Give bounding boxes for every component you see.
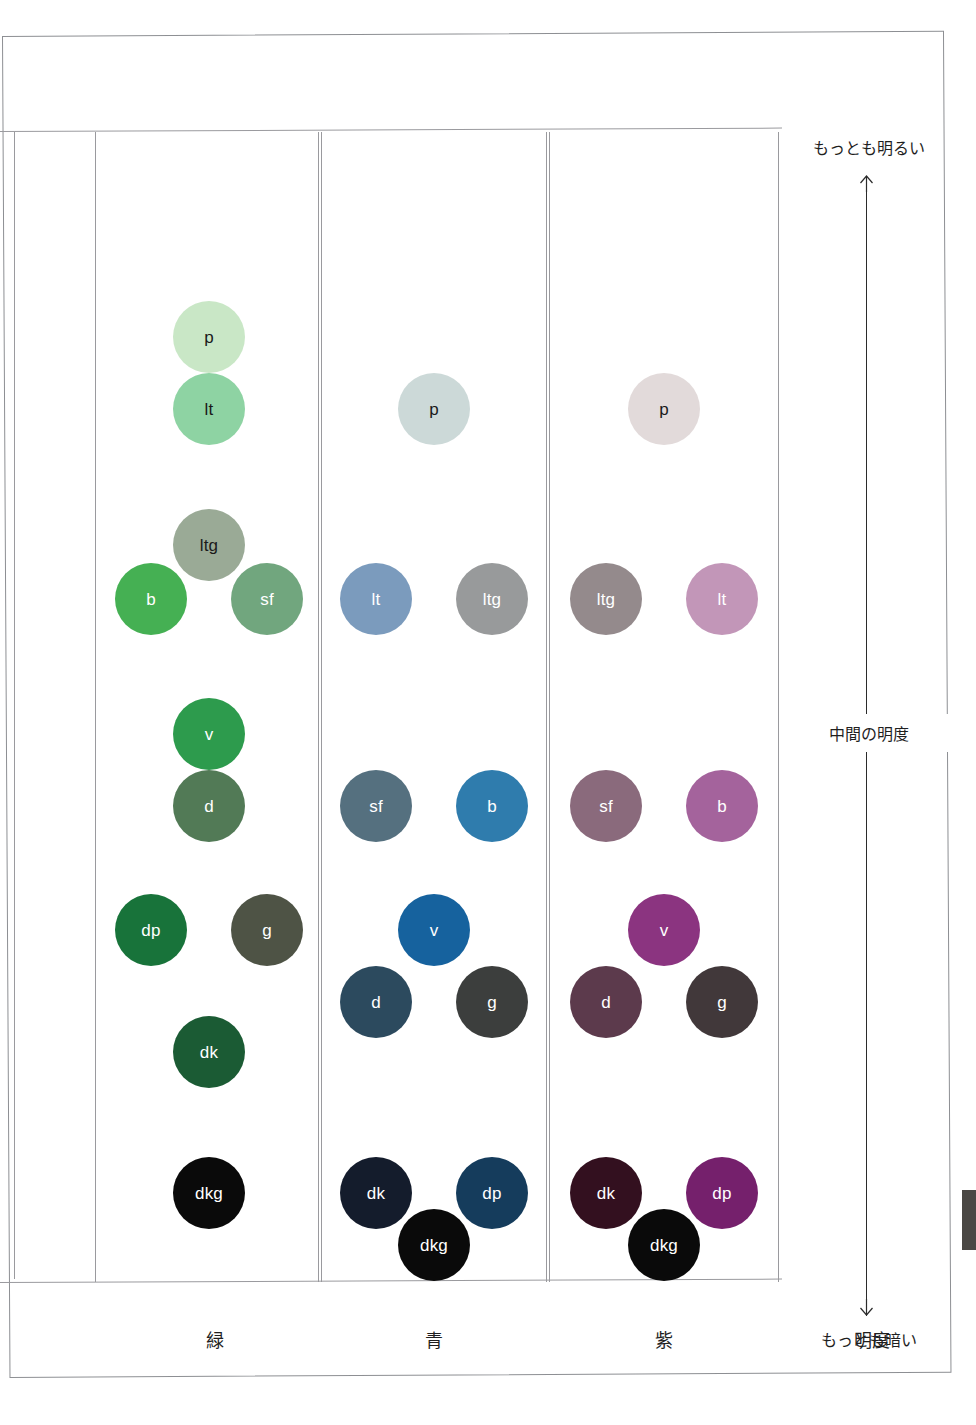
swatch-code-label: dp: [482, 1185, 501, 1202]
grid-vline-purple-left: [549, 132, 550, 1282]
swatch-purple-dk: dk: [570, 1157, 642, 1229]
swatch-code-label: p: [429, 401, 439, 418]
grid-vline-green-right: [318, 132, 319, 1282]
swatch-purple-b: b: [686, 770, 758, 842]
swatch-purple-d: d: [570, 966, 642, 1038]
swatch-blue-ltg: ltg: [456, 563, 528, 635]
swatch-code-label: ltg: [597, 591, 616, 608]
brightness-axis: もっとも明るい 中間の明度 もっとも暗い: [800, 131, 976, 1291]
swatch-code-label: dk: [200, 1044, 218, 1061]
swatch-code-label: g: [262, 922, 272, 939]
swatch-code-label: sf: [260, 591, 274, 608]
axis-label-middle: 中間の明度: [781, 714, 957, 752]
swatch-green-dk: dk: [173, 1016, 245, 1088]
swatch-code-label: ltg: [200, 537, 219, 554]
swatch-purple-g: g: [686, 966, 758, 1038]
swatch-code-label: d: [371, 994, 381, 1011]
swatch-code-label: g: [487, 994, 497, 1011]
swatch-blue-sf: sf: [340, 770, 412, 842]
axis-label-darkest: もっとも暗い: [781, 1327, 957, 1351]
swatch-purple-dkg: dkg: [628, 1209, 700, 1281]
grid-vline-purple-right: [778, 132, 779, 1282]
swatch-code-label: g: [717, 994, 727, 1011]
swatch-blue-d: d: [340, 966, 412, 1038]
swatch-blue-v: v: [398, 894, 470, 966]
swatch-purple-lt: lt: [686, 563, 758, 635]
swatch-code-label: lt: [372, 591, 381, 608]
swatch-code-label: b: [717, 798, 727, 815]
swatch-code-label: sf: [369, 798, 383, 815]
swatch-code-label: v: [205, 726, 214, 743]
tone-chart: pltltgbsfvddpgdkdkgpltltgsfbvdgdkdpdkgpl…: [0, 131, 782, 1284]
swatch-code-label: b: [487, 798, 497, 815]
arrow-up-icon: [858, 175, 875, 192]
arrow-down-icon: [858, 1299, 875, 1316]
swatch-code-label: b: [146, 591, 156, 608]
swatch-blue-dp: dp: [456, 1157, 528, 1229]
chart-page: pltltgbsfvddpgdkdkgpltltgsfbvdgdkdpdkgpl…: [0, 0, 976, 1425]
swatch-code-label: v: [430, 922, 439, 939]
swatch-blue-p: p: [398, 373, 470, 445]
swatch-green-g: g: [231, 894, 303, 966]
swatch-purple-p: p: [628, 373, 700, 445]
column-label-blue: 青: [374, 1326, 494, 1352]
swatch-code-label: dkg: [195, 1185, 223, 1202]
swatch-green-v: v: [173, 698, 245, 770]
grid-top-rule: [0, 128, 782, 132]
grid-vline-green-left: [95, 132, 96, 1282]
swatch-code-label: dk: [597, 1185, 615, 1202]
axis-label-brightest: もっとも明るい: [781, 135, 957, 159]
grid-vline-blue-right: [546, 132, 547, 1282]
swatch-green-dkg: dkg: [173, 1157, 245, 1229]
swatch-blue-dk: dk: [340, 1157, 412, 1229]
swatch-code-label: lt: [718, 591, 727, 608]
swatch-blue-dkg: dkg: [398, 1209, 470, 1281]
swatch-green-dp: dp: [115, 894, 187, 966]
swatch-code-label: sf: [599, 798, 613, 815]
swatch-purple-dp: dp: [686, 1157, 758, 1229]
swatch-code-label: p: [659, 401, 669, 418]
swatch-blue-lt: lt: [340, 563, 412, 635]
swatch-code-label: dp: [141, 922, 160, 939]
swatch-green-ltg: ltg: [173, 509, 245, 581]
swatch-green-p: p: [173, 301, 245, 373]
swatch-code-label: dkg: [650, 1237, 678, 1254]
swatch-purple-ltg: ltg: [570, 563, 642, 635]
grid-vline-blue-left: [321, 132, 322, 1282]
swatch-code-label: dk: [367, 1185, 385, 1202]
swatch-green-sf: sf: [231, 563, 303, 635]
swatch-code-label: dp: [712, 1185, 731, 1202]
column-label-purple: 紫: [604, 1326, 724, 1352]
column-label-green: 緑: [155, 1326, 275, 1352]
swatch-purple-sf: sf: [570, 770, 642, 842]
swatch-code-label: v: [660, 922, 669, 939]
swatch-code-label: ltg: [483, 591, 502, 608]
grid-vline-outer-left: [14, 132, 15, 1279]
swatch-blue-b: b: [456, 770, 528, 842]
swatch-green-d: d: [173, 770, 245, 842]
swatch-code-label: lt: [205, 401, 214, 418]
swatch-green-b: b: [115, 563, 187, 635]
swatch-code-label: d: [204, 798, 214, 815]
swatch-code-label: dkg: [420, 1237, 448, 1254]
swatch-code-label: d: [601, 994, 611, 1011]
swatch-blue-g: g: [456, 966, 528, 1038]
swatch-code-label: p: [204, 329, 214, 346]
swatch-green-lt: lt: [173, 373, 245, 445]
swatch-purple-v: v: [628, 894, 700, 966]
